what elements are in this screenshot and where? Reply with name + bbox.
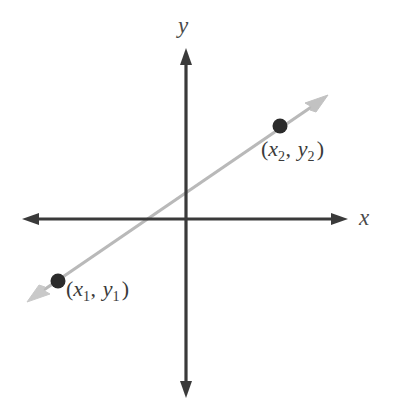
y-variable: y	[298, 136, 308, 161]
paren-close: )	[317, 136, 324, 161]
point-marker-2	[273, 119, 288, 134]
y-axis	[180, 48, 192, 398]
y-axis-label: y	[178, 14, 188, 37]
x-axis-label: x	[359, 206, 369, 229]
label-comma: ,	[285, 136, 292, 161]
point-1-label: (x1, y1 )	[66, 278, 129, 303]
y-axis-arrowhead-up	[180, 48, 192, 65]
y-subscript: 2	[308, 148, 315, 164]
y-axis-arrowhead-down	[180, 381, 192, 398]
graph-canvas	[0, 0, 398, 419]
point-2-label: (x2, y2 )	[261, 138, 324, 163]
x-variable: x	[73, 276, 83, 301]
label-comma: ,	[90, 276, 97, 301]
x-variable: x	[268, 136, 278, 161]
x-axis-arrowhead-right	[331, 213, 348, 225]
paren-close: )	[122, 276, 129, 301]
point-marker-1	[51, 274, 66, 289]
y-subscript: 1	[113, 288, 120, 304]
y-variable: y	[103, 276, 113, 301]
coordinate-plane-figure: y x (x2, y2 ) (x1, y1 )	[0, 0, 398, 419]
x-axis-arrowhead-left	[22, 213, 39, 225]
